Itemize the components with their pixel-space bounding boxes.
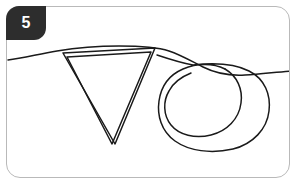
baseline-curve (8, 46, 290, 75)
loop-inner-curve (165, 69, 242, 137)
step-number-badge: 5 (6, 6, 50, 40)
triangle-outline (63, 48, 155, 144)
loop-outer-curve (157, 55, 269, 151)
triangle-inner-outline (67, 52, 151, 144)
screenshot-root: 5 (0, 0, 297, 185)
step-number-label: 5 (6, 6, 46, 40)
